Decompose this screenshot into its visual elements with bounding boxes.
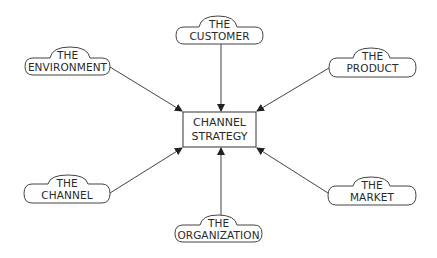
- node-channel-line2: CHANNEL: [24, 189, 110, 201]
- node-product-line2: PRODUCT: [329, 62, 416, 74]
- node-market-line2: MARKET: [328, 191, 416, 203]
- node-customer-line1: THE: [176, 18, 263, 30]
- node-environment-line1: THE: [25, 49, 110, 61]
- node-channel-line1: THE: [24, 177, 110, 189]
- node-environment: THE ENVIRONMENT: [25, 49, 110, 73]
- center-label-line2: STRATEGY: [183, 130, 256, 144]
- node-market: THE MARKET: [328, 179, 416, 203]
- arrow-channel: [110, 148, 182, 193]
- center-label-line1: CHANNEL: [183, 116, 256, 130]
- node-organization: THE ORGANIZATION: [175, 217, 262, 241]
- center-label: CHANNEL STRATEGY: [183, 116, 256, 144]
- node-organization-line1: THE: [175, 217, 262, 229]
- arrow-market: [257, 148, 328, 193]
- node-product-line1: THE: [329, 50, 416, 62]
- node-market-line1: THE: [328, 179, 416, 191]
- node-customer: THE CUSTOMER: [176, 18, 263, 42]
- node-organization-line2: ORGANIZATION: [175, 229, 262, 241]
- node-environment-line2: ENVIRONMENT: [25, 61, 110, 73]
- arrow-product: [257, 68, 329, 111]
- arrow-environment: [110, 67, 182, 111]
- node-customer-line2: CUSTOMER: [176, 30, 263, 42]
- node-product: THE PRODUCT: [329, 50, 416, 74]
- node-channel: THE CHANNEL: [24, 177, 110, 201]
